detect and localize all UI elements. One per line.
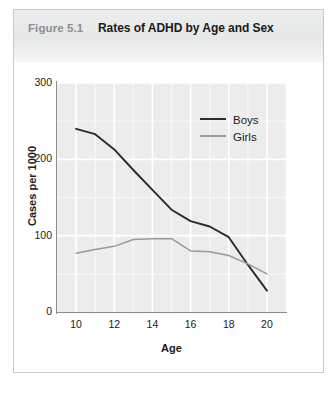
x-tick-label: 16 <box>176 318 206 330</box>
figure-title: Rates of ADHD by Age and Sex <box>98 21 303 37</box>
x-tick-label: 10 <box>61 318 91 330</box>
figure-number-label: Figure 5.1 <box>28 22 83 34</box>
legend-item-girls: Girls <box>200 127 259 144</box>
y-axis-title: Cases per 1000 <box>26 131 38 241</box>
x-axis-line <box>56 312 287 313</box>
plot-wrapper: 0100200300 101214161820 Cases per 1000 A… <box>14 62 323 373</box>
x-tick-label: 14 <box>137 318 167 330</box>
x-tick-label: 20 <box>252 318 282 330</box>
x-tick-label: 12 <box>99 318 129 330</box>
legend-label: Girls <box>233 131 257 143</box>
series-line-boys <box>76 129 267 291</box>
legend-swatch-boys <box>200 118 226 120</box>
figure-header: Figure 5.1 Rates of ADHD by Age and Sex <box>14 10 323 62</box>
chart-legend: BoysGirls <box>200 110 259 144</box>
legend-item-boys: Boys <box>200 110 259 127</box>
y-tick-label: 300 <box>20 76 52 88</box>
x-axis-tick-labels: 101214161820 <box>57 318 286 336</box>
x-tick-label: 18 <box>214 318 244 330</box>
y-tick-label: 0 <box>20 305 52 317</box>
figure-container: Figure 5.1 Rates of ADHD by Age and Sex … <box>13 9 324 373</box>
series-line-girls <box>76 239 267 274</box>
y-axis-line <box>56 81 57 314</box>
legend-label: Boys <box>233 114 259 126</box>
legend-swatch-girls <box>200 135 226 137</box>
x-axis-title: Age <box>57 342 286 354</box>
